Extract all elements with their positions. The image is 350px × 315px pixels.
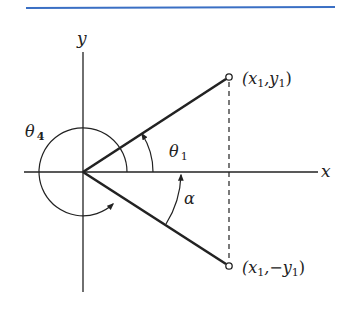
ray-upper <box>83 79 226 172</box>
point-upper-marker <box>226 74 232 80</box>
alpha-arc <box>166 175 181 224</box>
trig-angle-diagram: y x θ4 θ1 α (x1,y1) (x1,−y1) <box>0 0 350 315</box>
x-axis-label: x <box>321 161 331 181</box>
theta1-arc <box>142 134 153 172</box>
ray-lower <box>83 172 226 264</box>
theta4-label: θ4 <box>25 122 45 143</box>
alpha-label: α <box>184 189 195 208</box>
theta1-label: θ1 <box>169 142 188 163</box>
header-rule <box>26 7 335 8</box>
point-upper-label: (x1,y1) <box>242 69 292 90</box>
y-axis-label: y <box>76 28 87 48</box>
point-lower-label: (x1,−y1) <box>242 258 305 279</box>
point-lower-marker <box>226 263 232 269</box>
